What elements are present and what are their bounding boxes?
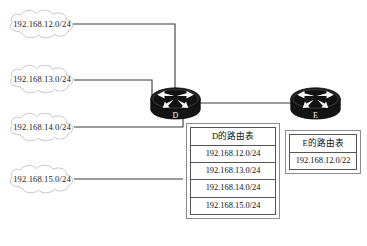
routing-table-e-row: 192.168.12.0/22	[290, 153, 356, 170]
routing-table-d-header: D的路由表	[191, 128, 275, 146]
cloud-label: 192.168.13.0/24	[13, 74, 71, 84]
cloud-label: 192.168.14.0/24	[13, 122, 71, 132]
cloud-cloud-12: 192.168.12.0/24	[10, 10, 72, 38]
router-label-d: D	[173, 111, 179, 120]
link-cloud13-to-router-d	[74, 80, 152, 101]
cloud-cloud-15: 192.168.15.0/24	[10, 165, 72, 193]
router-node-d: D	[151, 88, 201, 120]
diagram-canvas: 192.168.12.0/24 192.168.13.0/24 192.168.…	[0, 0, 367, 246]
routing-table-d-row: 192.168.13.0/24	[191, 163, 275, 180]
cloud-label: 192.168.15.0/24	[13, 174, 71, 184]
routing-table-e-header: E的路由表	[290, 135, 356, 153]
routing-table-e-inner: E的路由表 192.168.12.0/22	[289, 134, 357, 170]
routing-table-d-row: 192.168.15.0/24	[191, 198, 275, 215]
routing-table-e: E的路由表 192.168.12.0/22	[285, 130, 361, 174]
routing-table-d: D的路由表 192.168.12.0/24 192.168.13.0/24 19…	[186, 123, 280, 219]
router-label-e: E	[313, 111, 318, 120]
cloud-label: 192.168.12.0/24	[13, 19, 71, 29]
router-node-e: E	[291, 88, 341, 120]
routing-table-d-inner: D的路由表 192.168.12.0/24 192.168.13.0/24 19…	[190, 127, 276, 215]
routing-table-d-row: 192.168.12.0/24	[191, 146, 275, 163]
routing-table-d-row: 192.168.14.0/24	[191, 180, 275, 197]
cloud-cloud-13: 192.168.13.0/24	[10, 65, 72, 93]
cloud-cloud-14: 192.168.14.0/24	[10, 113, 72, 141]
network-diagram: 192.168.12.0/24 192.168.13.0/24 192.168.…	[0, 0, 367, 246]
